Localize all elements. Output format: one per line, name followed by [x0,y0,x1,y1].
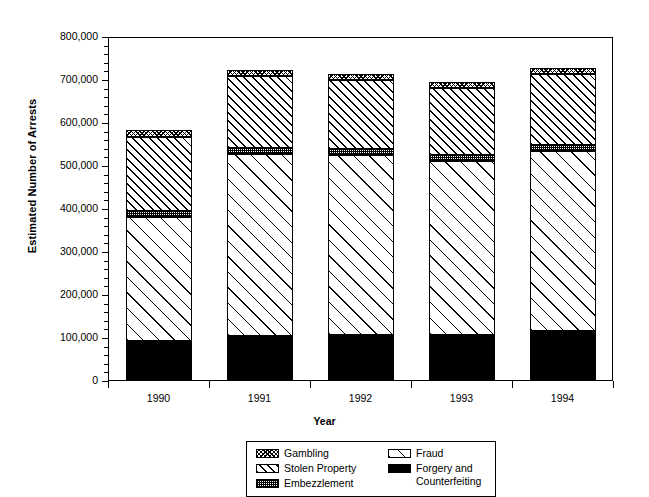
legend-label: Stolen Property [284,462,356,475]
y-tick-minor [104,97,109,98]
legend-label: Embezzlement [284,477,353,490]
bar-segment-fraud [429,161,495,335]
y-tick-minor [104,226,109,227]
legend-label: Fraud [416,447,443,460]
y-tick-minor [104,243,109,244]
diagonal-hatch-swatch [256,464,279,473]
y-tick-minor [104,355,109,356]
y-tick-minor [104,200,109,201]
y-tick-minor [104,149,109,150]
bar-segment-forgery-and-counterfeiting [429,335,495,381]
solid-black-swatch [388,464,411,473]
bar-1990 [126,37,192,381]
y-tick-minor [104,329,109,330]
y-tick-label: 500,000 [20,159,98,171]
y-tick-major [102,123,109,124]
y-tick-minor [104,89,109,90]
x-tick [411,381,412,388]
y-tick-minor [104,71,109,72]
y-tick-label: 300,000 [20,245,98,257]
y-tick-minor [104,63,109,64]
bar-segment-stolen-property [328,80,394,149]
legend-label: Forgery and Counterfeiting [416,462,481,488]
y-tick-label: 600,000 [20,116,98,128]
x-tick [209,381,210,388]
y-tick-minor [104,312,109,313]
x-axis-title: Year [0,415,649,427]
y-tick-minor [104,175,109,176]
bar-segment-gambling [328,74,394,80]
x-tick-label: 1993 [417,392,507,404]
sparse-diagonal-swatch [388,449,411,458]
bar-segment-forgery-and-counterfeiting [126,341,192,381]
bar-segment-stolen-property [429,88,495,155]
bar-1994 [530,37,596,381]
legend-item: Forgery and Counterfeiting [388,462,492,488]
y-tick-minor [104,140,109,141]
bar-1991 [227,37,293,381]
y-tick-label: 400,000 [20,202,98,214]
y-tick-minor [104,278,109,279]
y-axis-title: Estimated Number of Arrests [26,86,38,266]
bar-1993 [429,37,495,381]
bar-segment-gambling [530,68,596,74]
bar-segment-stolen-property [530,74,596,145]
y-tick-minor [104,235,109,236]
legend-item: Embezzlement [256,477,386,490]
bar-segment-gambling [126,130,192,137]
y-tick-minor [104,54,109,55]
bar-segment-embezzlement [126,211,192,217]
y-tick-major [102,37,109,38]
y-tick-minor [104,364,109,365]
x-tick-label: 1994 [518,392,608,404]
bar-segment-embezzlement [227,148,293,154]
dense-crosshatch-swatch [256,449,279,458]
y-tick-minor [104,218,109,219]
bar-segment-stolen-property [227,76,293,148]
legend: GamblingStolen PropertyEmbezzlement Frau… [246,441,496,497]
y-tick-major [102,166,109,167]
y-tick-major [102,295,109,296]
bar-segment-gambling [429,82,495,88]
y-tick-label: 700,000 [20,73,98,85]
bar-segment-fraud [328,155,394,335]
legend-item: Gambling [256,447,386,460]
y-tick-major [102,252,109,253]
bar-segment-embezzlement [530,145,596,151]
fine-stipple-swatch [256,479,279,488]
stacked-bar-chart: Estimated Number of Arrests 0100,000200,… [0,0,649,497]
y-tick-label: 200,000 [20,288,98,300]
x-tick-label: 1990 [114,392,204,404]
bar-segment-fraud [126,217,192,341]
bar-segment-fraud [530,151,596,331]
y-tick-minor [104,347,109,348]
bar-1992 [328,37,394,381]
y-tick-major [102,209,109,210]
bar-segment-fraud [227,154,293,336]
bar-segment-embezzlement [328,149,394,155]
bar-segment-forgery-and-counterfeiting [328,335,394,381]
bar-segment-forgery-and-counterfeiting [227,336,293,381]
legend-column-right: FraudForgery and Counterfeiting [388,447,492,490]
y-tick-minor [104,286,109,287]
y-tick-label: 0 [20,374,98,386]
y-tick-minor [104,132,109,133]
x-tick-label: 1992 [316,392,406,404]
legend-item: Stolen Property [256,462,386,475]
y-tick-minor [104,321,109,322]
y-tick-minor [104,106,109,107]
x-tick [108,381,109,388]
legend-label: Gambling [284,447,329,460]
y-tick-label: 800,000 [20,30,98,42]
legend-column-left: GamblingStolen PropertyEmbezzlement [256,447,386,492]
bar-segment-gambling [227,70,293,76]
y-tick-minor [104,261,109,262]
x-tick-label: 1991 [215,392,305,404]
y-tick-major [102,338,109,339]
y-tick-minor [104,269,109,270]
y-tick-minor [104,304,109,305]
y-tick-minor [104,183,109,184]
y-tick-major [102,80,109,81]
y-tick-minor [104,157,109,158]
y-tick-minor [104,46,109,47]
